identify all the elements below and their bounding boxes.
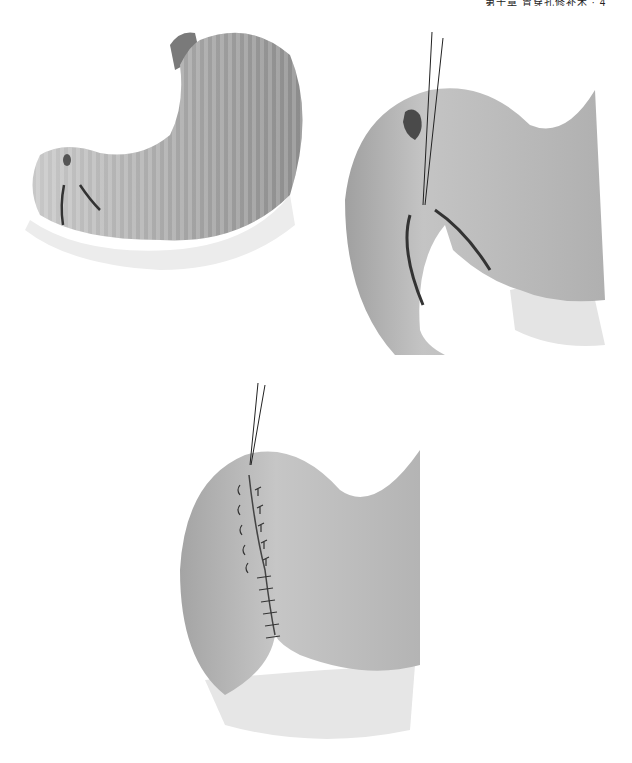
figure-sutured-pylorus <box>165 380 430 763</box>
figure-stomach-overview <box>20 25 320 270</box>
ulcer-mark <box>63 154 71 166</box>
figure-pylorus-incision <box>335 0 632 360</box>
